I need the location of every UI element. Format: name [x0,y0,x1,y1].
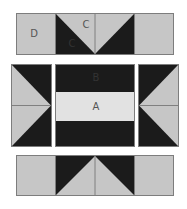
label-d: D [30,29,38,39]
bottom-right-square [134,155,174,196]
label-c: C [83,20,90,30]
top-left-square-d: D [16,13,56,55]
flying-geese-left-icon [139,65,178,146]
center-strip-set: B A [55,64,135,147]
flying-geese-right-icon [12,65,51,146]
top-right-square [134,13,174,55]
label-b: B [93,73,100,83]
middle-left-flying-geese [11,64,52,147]
top-flying-geese-c: C C [55,13,135,55]
flying-geese-up-icon [56,156,134,195]
middle-right-flying-geese [138,64,179,147]
bottom-left-square [16,155,56,196]
bottom-flying-geese [55,155,135,196]
label-a: A [93,102,100,112]
label-c-dark: C [69,39,76,49]
